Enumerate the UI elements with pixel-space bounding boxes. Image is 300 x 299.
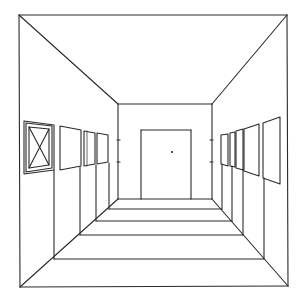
left-painting-4 [97, 133, 108, 164]
right-painting-4 [244, 124, 259, 176]
right-painting-5 [263, 117, 280, 184]
right-wall-verticals [222, 164, 264, 259]
left-wall-verticals [54, 163, 109, 259]
perspective-diagonals [19, 15, 288, 287]
left-painting-2 [60, 126, 81, 170]
outer-frame [19, 15, 288, 287]
left-painting-x [24, 121, 54, 174]
right-painting-1 [221, 134, 228, 166]
left-paintings [24, 121, 108, 174]
wall-ticks [117, 140, 213, 162]
hallway-drawing [0, 0, 300, 299]
left-painting-3 [84, 131, 95, 166]
right-painting-3 [236, 129, 243, 170]
door [141, 130, 191, 199]
right-painting-2 [230, 132, 235, 167]
door-knob [171, 151, 173, 153]
right-paintings [221, 117, 280, 184]
back-wall [118, 104, 212, 199]
